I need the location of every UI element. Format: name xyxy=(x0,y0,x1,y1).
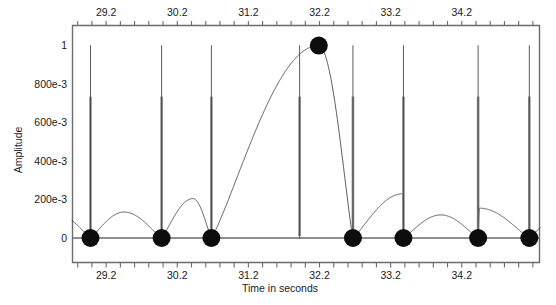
top-axis-tick-labels: 29.230.231.232.233.234.2 xyxy=(96,6,472,18)
x-tick-label-top: 29.2 xyxy=(96,6,117,18)
y-tick-label: 200e-3 xyxy=(34,193,67,205)
x-tick-label-top: 32.2 xyxy=(309,6,330,18)
peak-marker-dot xyxy=(310,37,328,55)
peak-marker-dot xyxy=(202,229,220,247)
x-axis-title: Time in seconds xyxy=(242,282,318,294)
x-tick-label-bottom: 31.2 xyxy=(238,269,259,281)
x-tick-label-top: 33.2 xyxy=(380,6,401,18)
x-tick-label-bottom: 30.2 xyxy=(167,269,188,281)
bottom-axis-ticks xyxy=(78,263,533,268)
bottom-axis-tick-labels: 29.230.231.232.233.234.2 xyxy=(96,269,472,281)
y-axis-title: Amplitude xyxy=(12,127,24,174)
signal-series xyxy=(72,46,540,238)
x-tick-label-bottom: 29.2 xyxy=(96,269,117,281)
x-tick-label-bottom: 34.2 xyxy=(452,269,473,281)
bottom-axis: 29.230.231.232.233.234.2 Time in seconds xyxy=(72,263,540,295)
y-tick-label: 800e-3 xyxy=(34,78,67,90)
y-axis-tick-labels: 0200e-3400e-3600e-3800e-31 xyxy=(34,39,67,243)
x-tick-label-top: 31.2 xyxy=(238,6,259,18)
peak-marker-dot xyxy=(394,229,412,247)
chart-container: 29.230.231.232.233.234.2 0200e-3400e-360… xyxy=(0,0,556,305)
ecg-amplitude-chart: 29.230.231.232.233.234.2 0200e-3400e-360… xyxy=(0,0,556,305)
y-tick-label: 1 xyxy=(61,39,67,51)
x-tick-label-bottom: 33.2 xyxy=(380,269,401,281)
y-tick-label: 400e-3 xyxy=(34,155,67,167)
peak-markers xyxy=(81,37,538,247)
top-axis: 29.230.231.232.233.234.2 xyxy=(72,6,540,26)
y-tick-label: 600e-3 xyxy=(34,116,67,128)
peak-marker-dot xyxy=(153,229,171,247)
peak-marker-dot xyxy=(81,229,99,247)
x-tick-label-top: 34.2 xyxy=(452,6,473,18)
peak-marker-dot xyxy=(469,229,487,247)
y-tick-label: 0 xyxy=(61,232,67,244)
peak-marker-dot xyxy=(344,229,362,247)
signal-envelope-path xyxy=(72,46,540,238)
x-tick-label-bottom: 32.2 xyxy=(309,269,330,281)
x-tick-label-top: 30.2 xyxy=(167,6,188,18)
peak-marker-dot xyxy=(520,229,538,247)
left-axis: 0200e-3400e-3600e-3800e-31 Amplitude xyxy=(12,26,73,263)
